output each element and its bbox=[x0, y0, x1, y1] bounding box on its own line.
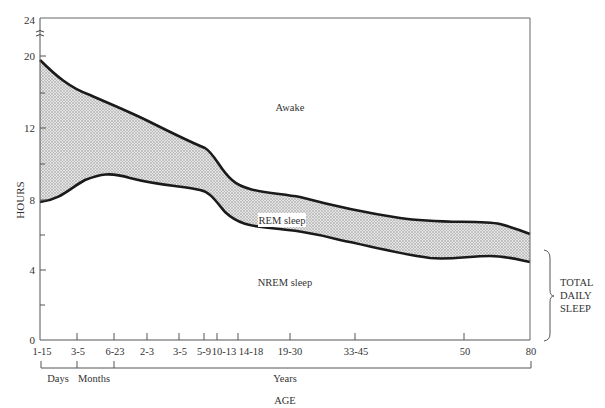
x-tick-label: 3-5 bbox=[173, 346, 187, 357]
age-group-years: Years bbox=[273, 373, 296, 384]
x-tick-label: 80 bbox=[526, 346, 537, 357]
y-axis-label: HOURS bbox=[14, 181, 26, 218]
brace-icon bbox=[544, 250, 554, 341]
total-daily-sleep-label: TOTAL bbox=[560, 277, 593, 288]
rem-band bbox=[40, 60, 530, 262]
awake-label: Awake bbox=[276, 102, 305, 113]
x-tick-label: 33-45 bbox=[344, 346, 369, 357]
total-daily-sleep-label: SLEEP bbox=[560, 303, 591, 314]
x-tick-label: 10-13 bbox=[212, 346, 237, 357]
y-tick-4: 4 bbox=[30, 264, 36, 276]
x-tick-label: 14-18 bbox=[239, 346, 264, 357]
x-tick-label: 5-9 bbox=[197, 346, 211, 357]
x-tick-label: 19-30 bbox=[278, 346, 303, 357]
y-tick-8: 8 bbox=[30, 194, 36, 206]
y-tick-12: 12 bbox=[24, 122, 35, 134]
x-ticks bbox=[77, 333, 464, 340]
age-group-days: Days bbox=[47, 373, 69, 384]
x-tick-label: 6-23 bbox=[105, 346, 124, 357]
y-tick-0: 0 bbox=[30, 334, 36, 346]
nrem-label: NREM sleep bbox=[258, 277, 313, 288]
y-tick-20: 20 bbox=[24, 50, 36, 62]
rem-label: REM sleep bbox=[259, 215, 306, 226]
x-tick-label: 50 bbox=[460, 346, 471, 357]
x-tick-label: 1-15 bbox=[32, 346, 51, 357]
age-group-bracket bbox=[41, 361, 531, 368]
x-axis-label: AGE bbox=[274, 395, 296, 406]
total-daily-sleep-label: DAILY bbox=[560, 290, 592, 301]
x-tick-label: 2-3 bbox=[140, 346, 154, 357]
y-tick-24: 24 bbox=[24, 14, 36, 26]
x-tick-label: 3-5 bbox=[71, 346, 85, 357]
age-group-months: Months bbox=[78, 373, 110, 384]
sleep-chart: 24 20 12 8 4 0 HOURS 1-15 3-5 6-23 2-3 3… bbox=[0, 0, 605, 408]
